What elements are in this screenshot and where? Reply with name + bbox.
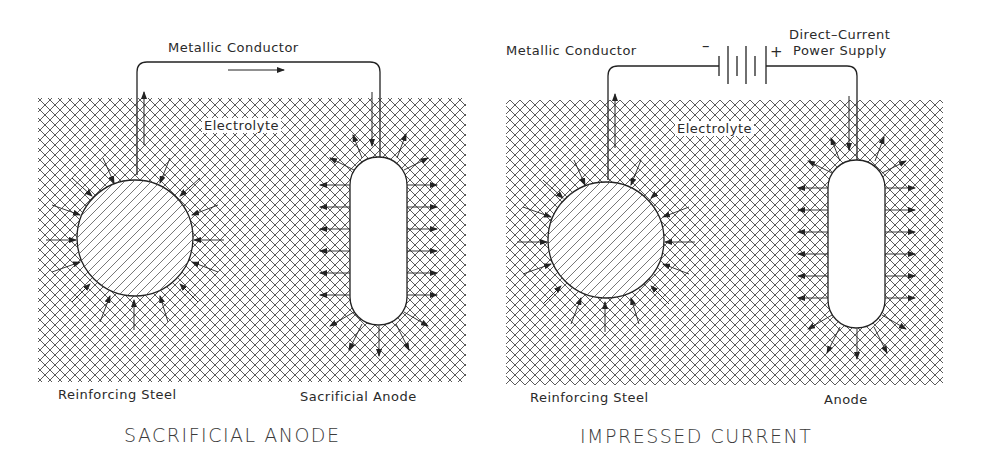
sacrificial-anode-panel (38, 62, 466, 382)
sacrificial-anode-body (350, 157, 407, 325)
battery-minus-sign: – (702, 37, 710, 55)
metallic-conductor-label: Metallic Conductor (168, 40, 299, 55)
electrolyte-label: Electrolyte (675, 121, 754, 136)
power-supply-label-line2: Power Supply (793, 43, 887, 58)
metallic-conductor-label: Metallic Conductor (506, 43, 637, 58)
reinforcing-steel-label: Reinforcing Steel (58, 387, 177, 402)
sacrificial-anode-label: Sacrificial Anode (300, 389, 417, 404)
panel-title-impressed-current: IMPRESSED CURRENT (580, 425, 812, 447)
power-supply-label-line1: Direct–Current (789, 27, 890, 42)
reinforcing-steel-label: Reinforcing Steel (530, 390, 649, 405)
impressed-current-panel (506, 46, 943, 385)
anode-label: Anode (824, 392, 868, 407)
electrolyte-label: Electrolyte (202, 118, 281, 133)
panel-title-sacrificial-anode: SACRIFICIAL ANODE (124, 424, 340, 446)
dc-power-supply-battery-icon (719, 46, 766, 84)
battery-plus-sign: + (770, 43, 783, 61)
anode-body (828, 160, 885, 328)
